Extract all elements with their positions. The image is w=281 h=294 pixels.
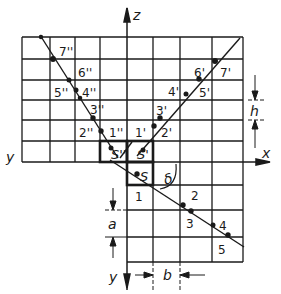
point-label: 6'' [78, 66, 92, 80]
x-axis-label: x [261, 145, 271, 161]
point-label: 7' [220, 66, 231, 80]
point-label: 1' [135, 126, 146, 140]
point-label: 3'' [90, 103, 104, 117]
y-axis-bottom-label: y [108, 269, 118, 285]
point-label: 2' [161, 126, 172, 140]
point-label: 5' [199, 86, 210, 100]
point-label: 4'' [82, 86, 96, 100]
z-axis-arrow-icon [124, 8, 130, 22]
point-label: 1'' [109, 126, 123, 140]
source-s-double-prime-label: S'' [111, 147, 126, 162]
point-label: 3 [186, 217, 194, 231]
y-axis-down-arrow-icon [124, 274, 130, 288]
orthographic-projection-diagram: z x y y h a b δ S'' S' S 1'' 2'' 3'' 4''… [0, 0, 281, 294]
point-label: 1 [135, 190, 143, 204]
point-label: 4 [219, 219, 227, 233]
point-label: 5'' [54, 86, 68, 100]
point-label: 2'' [79, 126, 93, 140]
point-label: 4' [168, 85, 179, 99]
point-label: 5 [218, 243, 226, 257]
source-s-prime-label: S' [137, 147, 149, 162]
dimension-b-label: b [163, 267, 172, 283]
dimension-h-label: h [250, 103, 259, 119]
point-label: 7'' [59, 45, 73, 59]
point-label: 3' [156, 104, 167, 118]
dimension-a-label: a [108, 216, 117, 232]
point-label: 6' [194, 66, 205, 80]
z-axis-label: z [132, 7, 141, 23]
diagram-canvas: z x y y h a b δ S'' S' S 1'' 2'' 3'' 4''… [0, 0, 281, 294]
source-s-label: S [140, 169, 148, 184]
grid [22, 37, 243, 262]
y-axis-left-label: y [5, 149, 15, 165]
line-plan [110, 160, 244, 247]
point-label: 2 [191, 189, 199, 203]
